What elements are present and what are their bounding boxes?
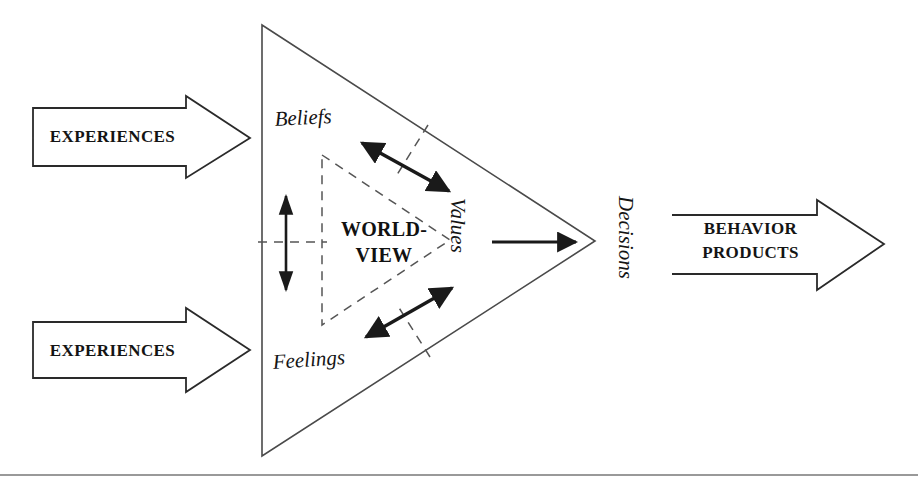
- behavior-label: BEHAVIOR: [688, 220, 813, 237]
- products-label: PRODUCTS: [688, 244, 813, 261]
- experiences-label-bottom: EXPERIENCES: [40, 342, 185, 359]
- worldview-label-line2: VIEW: [330, 244, 438, 266]
- feelings-values-arrow: [366, 288, 452, 337]
- beliefs-label: Beliefs: [274, 106, 332, 130]
- diagram-root: EXPERIENCES EXPERIENCES BEHAVIOR PRODUCT…: [0, 0, 918, 481]
- decisions-label: Decisions: [615, 196, 636, 279]
- experiences-label-top: EXPERIENCES: [40, 128, 185, 145]
- values-label: Values: [447, 198, 468, 253]
- feelings-label: Feelings: [272, 347, 346, 373]
- worldview-label-line1: WORLD-: [330, 218, 438, 240]
- beliefs-values-arrow: [362, 143, 449, 191]
